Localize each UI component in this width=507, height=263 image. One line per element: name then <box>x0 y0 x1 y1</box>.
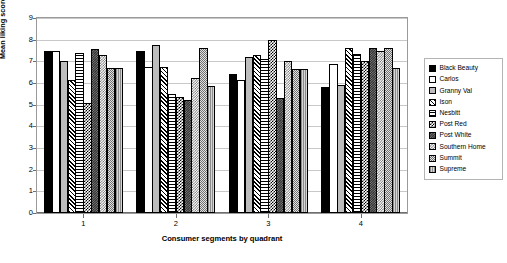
y-tick-mark <box>33 61 36 62</box>
legend-label: Post Red <box>440 121 467 128</box>
legend-swatch-icon <box>429 155 436 162</box>
y-tick-label: 8 <box>20 36 33 44</box>
y-tick-mark <box>33 191 36 192</box>
gridline <box>37 40 407 41</box>
y-tick-mark <box>33 18 36 19</box>
legend-label: Post White <box>440 132 472 139</box>
bar <box>115 68 123 213</box>
legend-label: Black Beauty <box>440 65 478 72</box>
bar <box>300 69 308 213</box>
legend-item: Post Red <box>429 119 499 130</box>
y-tick-label: 9 <box>20 14 33 22</box>
legend-swatch-icon <box>429 166 436 173</box>
x-tick-mark <box>361 214 362 218</box>
y-tick-label: 4 <box>20 123 33 131</box>
legend-label: Summit <box>440 155 462 162</box>
y-tick-mark <box>33 213 36 214</box>
legend-swatch-icon <box>429 65 436 72</box>
legend-label: Granny Val <box>440 88 473 95</box>
y-tick-mark <box>33 170 36 171</box>
y-tick-label: 3 <box>20 144 33 152</box>
legend-item: Nesbitt <box>429 108 499 119</box>
bar <box>392 68 400 213</box>
plot-area <box>36 17 408 214</box>
x-tick-label: 2 <box>156 219 196 228</box>
legend-item: Ison <box>429 97 499 108</box>
legend-item: Black Beauty <box>429 63 499 74</box>
y-tick-label: 2 <box>20 166 33 174</box>
legend-label: Nesbitt <box>440 110 461 117</box>
x-tick-mark <box>176 214 177 218</box>
x-tick-label: 3 <box>248 219 288 228</box>
legend-item: Post White <box>429 130 499 141</box>
x-tick-mark <box>83 214 84 218</box>
y-tick-label: 0 <box>20 209 33 217</box>
legend-swatch-icon <box>429 143 436 150</box>
legend-label: Carlos <box>440 76 459 83</box>
legend-item: Supreme <box>429 164 499 175</box>
y-tick-label: 1 <box>20 188 33 196</box>
legend-label: Ison <box>440 99 452 106</box>
legend-swatch-icon <box>429 121 436 128</box>
y-tick-mark <box>33 126 36 127</box>
legend-swatch-icon <box>429 87 436 94</box>
x-tick-label: 4 <box>341 219 381 228</box>
y-tick-mark <box>33 105 36 106</box>
y-axis-title: Mean liking scores <box>0 0 7 86</box>
legend-item: Granny Val <box>429 85 499 96</box>
legend: Black BeautyCarlosGranny ValIsonNesbittP… <box>424 58 503 180</box>
y-tick-label: 7 <box>20 58 33 66</box>
y-tick-label: 5 <box>20 101 33 109</box>
legend-swatch-icon <box>429 132 436 139</box>
y-tick-mark <box>33 148 36 149</box>
legend-swatch-icon <box>429 76 436 83</box>
bar <box>207 86 215 213</box>
y-tick-mark <box>33 40 36 41</box>
legend-swatch-icon <box>429 110 436 117</box>
legend-item: Carlos <box>429 74 499 85</box>
legend-swatch-icon <box>429 99 436 106</box>
x-tick-label: 1 <box>63 219 103 228</box>
legend-label: Supreme <box>440 166 467 173</box>
y-tick-label: 6 <box>20 79 33 87</box>
y-tick-mark <box>33 83 36 84</box>
bar-chart: Mean liking scores Consumer segments by … <box>0 0 507 263</box>
x-tick-mark <box>268 214 269 218</box>
legend-item: Southern Home <box>429 141 499 152</box>
x-axis-title: Consumer segments by quadrant <box>36 234 408 243</box>
legend-label: Southern Home <box>440 144 486 151</box>
legend-item: Summit <box>429 153 499 164</box>
gridline <box>37 18 407 19</box>
